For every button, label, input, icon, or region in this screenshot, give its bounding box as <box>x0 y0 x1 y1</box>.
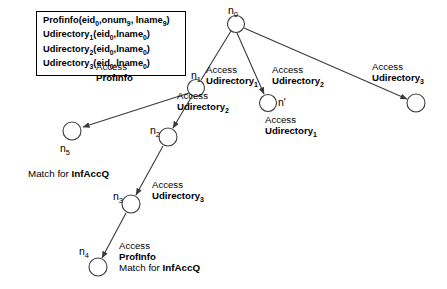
edge-label-verb: Access <box>152 179 204 190</box>
edge-label-access-udirectory1-nprime: Access Udirectory1 <box>265 114 317 139</box>
annotation-match-n5: Match for InfAccQ <box>28 168 109 180</box>
node-label-n3: n3 <box>113 190 123 206</box>
node-n5[interactable] <box>63 122 81 140</box>
definition-line-0-text: Profinfo(eid0,onum9, lname9) <box>43 15 170 25</box>
edge-label-verb: Access <box>96 61 133 72</box>
edge-label-access-udirectory1-n0-n1: Access Udirectory1 <box>206 64 258 89</box>
edge-label-operation: Udirectory1 <box>206 75 258 89</box>
node-n4[interactable] <box>89 258 107 276</box>
edge-label-operation: Udirectory3 <box>372 72 424 86</box>
definition-line-2-text: Udirectory2(eid0,lname0) <box>43 44 150 54</box>
node-label-n5: n5 <box>60 142 70 158</box>
edge-label-access-profinfo-n3-n4: Access ProfInfo <box>119 240 156 263</box>
node-n3[interactable] <box>122 195 140 213</box>
annotation-query-name: InfAccQ <box>163 262 201 273</box>
node-label-n0: n0 <box>228 4 238 20</box>
edge-label-access-profinfo-n1-n5: Access ProfInfo <box>96 61 133 84</box>
edge-label-verb: Access <box>177 90 229 101</box>
edge-label-operation: ProfInfo <box>96 72 133 83</box>
node-n2[interactable] <box>159 128 177 146</box>
node-label-n1: n1 <box>191 69 201 85</box>
edge-label-access-udirectory2-n0-nprime: Access Udirectory2 <box>272 64 324 89</box>
definition-line-profinfo: Profinfo(eid0,onum9, lname9) <box>43 15 180 29</box>
edge-label-access-udirectory3-n2-n3: Access Udirectory3 <box>152 179 204 204</box>
edge-label-verb: Access <box>272 64 324 75</box>
edge-label-access-udirectory3-n0-nright: Access Udirectory3 <box>372 61 424 86</box>
edge-label-verb: Access <box>119 240 156 251</box>
edge-label-operation: ProfInfo <box>119 251 156 262</box>
node-right[interactable] <box>407 94 425 112</box>
edge-label-operation: Udirectory3 <box>152 190 204 204</box>
node-label-n4: n4 <box>79 245 89 261</box>
diagram-canvas: Profinfo(eid0,onum9, lname9) Udirectory1… <box>0 0 447 289</box>
annotation-query-name: InfAccQ <box>72 168 110 179</box>
edge-label-verb: Access <box>372 61 424 72</box>
annotation-prefix: Match for <box>28 168 72 179</box>
node-nprime[interactable] <box>260 95 277 112</box>
edge-label-operation: Udirectory2 <box>272 75 324 89</box>
definition-line-1-text: Udirectory1(eid0,lname0) <box>43 29 150 39</box>
edge-label-operation: Udirectory1 <box>265 125 317 139</box>
annotation-match-n4: Match for InfAccQ <box>119 262 200 274</box>
node-label-nprime: n' <box>278 96 286 108</box>
edge-label-verb: Access <box>206 64 258 75</box>
edge-label-operation: Udirectory2 <box>177 101 229 115</box>
annotation-prefix: Match for <box>119 262 163 273</box>
definition-line-udirectory2: Udirectory2(eid0,lname0) <box>43 44 180 58</box>
edge-n1-n5 <box>83 93 189 127</box>
node-label-n2: n2 <box>150 124 160 140</box>
edge-label-verb: Access <box>265 114 317 125</box>
definition-line-udirectory1: Udirectory1(eid0,lname0) <box>43 29 180 43</box>
edge-label-access-udirectory2-n1-n2: Access Udirectory2 <box>177 90 229 115</box>
